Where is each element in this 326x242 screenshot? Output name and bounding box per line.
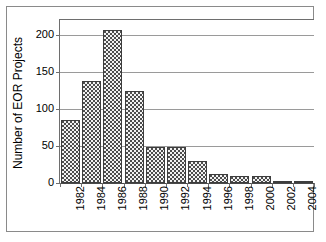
y-tick-mark [56,35,60,36]
x-tick-label: 2000 [264,186,276,230]
x-tick-label: 1984 [95,186,107,230]
y-tick-label: 200 [24,29,54,40]
plot-area [59,19,314,184]
bar-series [60,20,314,183]
bar [103,30,122,183]
bar [294,181,313,183]
x-tick-label: 1990 [158,186,170,230]
x-tick-label: 1998 [243,186,255,230]
x-tick-label: 2002 [285,186,297,230]
y-tick-mark [56,109,60,110]
y-tick-mark [56,72,60,73]
x-tick-label: 2004 [306,186,318,230]
x-tick-label: 1988 [137,186,149,230]
x-tick-label: 1996 [222,186,234,230]
bar [82,81,101,183]
y-tick-label: 100 [24,103,54,114]
bar [167,147,186,183]
y-axis-tick-labels: 050100150200 [24,16,54,186]
y-tick-label: 50 [24,140,54,151]
x-tick-label: 1994 [201,186,213,230]
y-tick-label: 0 [24,177,54,188]
chart-figure: Number of EOR Projects 050100150200 1982… [0,0,326,242]
y-tick-mark [56,183,60,184]
bar [209,174,228,183]
x-axis-tick-labels: 1982198419861988199019921994199619982000… [59,188,313,232]
y-tick-label: 150 [24,66,54,77]
bar [230,176,249,183]
bar [146,147,165,183]
bar [188,161,207,183]
bar [273,181,292,183]
y-tick-mark [56,146,60,147]
bar [252,176,271,183]
x-tick-label: 1992 [179,186,191,230]
x-tick-mark [60,183,61,187]
x-tick-label: 1986 [116,186,128,230]
x-tick-label: 1982 [74,186,86,230]
bar [61,120,80,183]
y-axis-title: Number of EOR Projects [11,13,25,193]
bar [125,91,144,183]
